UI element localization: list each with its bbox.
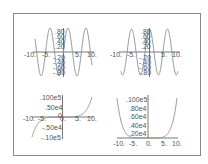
plot-array: -10. -5. 5. 10. .80 .60 .40 .20 -.20 -.4…: [0, 0, 208, 164]
y-tick: .20: [55, 43, 65, 50]
x-tick: 10.: [87, 51, 97, 58]
plot-top-left: -10. -5. 5. 10. .80 .60 .40 .20 -.20 -.4…: [24, 28, 97, 77]
y-tick: .100e5: [126, 96, 148, 103]
x-tick: 5.: [161, 140, 167, 147]
x-tick: -10.: [110, 51, 122, 58]
x-tick: -5.: [127, 51, 135, 58]
plot-bottom-right: -10. -5. 0. 5. 10. .100e5 .80e4 .60e4 .4…: [113, 95, 182, 147]
y-tick: .20: [141, 43, 151, 50]
plot-top-right: -10. -5. 5. 10. .80 .60 .40 .20 -.20 -.4…: [110, 28, 182, 77]
y-tick: .60e4: [129, 113, 147, 120]
y-tick: -.80: [53, 69, 65, 76]
y-tick: .40e4: [129, 122, 147, 129]
x-tick: 10.: [172, 140, 182, 147]
x-tick: -10.: [23, 115, 35, 122]
even-power-curve: [117, 98, 177, 138]
y-tick: -.50e4: [42, 124, 62, 131]
y-tick: -.80: [139, 69, 151, 76]
plot-bottom-left: -10. -5. 0. 5. 10. .100e5 .50e4 0 -.50e4…: [23, 94, 97, 141]
y-tick: .20e4: [129, 130, 147, 137]
x-tick: 10.: [87, 115, 97, 122]
x-tick: 5.: [75, 51, 81, 58]
x-tick: 5.: [161, 51, 167, 58]
y-tick: .100e5: [40, 94, 62, 101]
x-tick: -5.: [42, 51, 50, 58]
x-tick: -5.: [38, 115, 46, 122]
x-tick: -5.: [129, 140, 137, 147]
x-tick: 0.: [146, 140, 152, 147]
x-tick: -10.: [24, 51, 36, 58]
x-tick: 5.: [75, 115, 81, 122]
y-tick: 0: [58, 112, 62, 119]
x-tick: 10.: [172, 51, 182, 58]
y-tick: .50e4: [45, 104, 63, 111]
y-tick: -.10e5: [41, 134, 61, 141]
x-tick: -10.: [113, 140, 125, 147]
y-tick: .80e4: [129, 105, 147, 112]
